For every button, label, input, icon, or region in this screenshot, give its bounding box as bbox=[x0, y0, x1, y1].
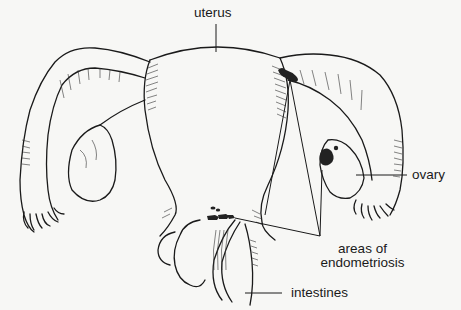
endometriosis-label-line2: endometriosis bbox=[295, 256, 430, 270]
endometriosis-label-line1: areas of bbox=[295, 242, 430, 256]
left-fallopian-tube bbox=[20, 48, 150, 232]
intestines-label: intestines bbox=[291, 286, 348, 300]
endometriosis-label: areas of endometriosis bbox=[295, 242, 430, 270]
ovary-label: ovary bbox=[412, 168, 445, 182]
endometriosis-lesions bbox=[207, 68, 338, 220]
uterus-label: uterus bbox=[194, 6, 232, 20]
endometriosis-diagram: uterus ovary areas of endometriosis inte… bbox=[0, 0, 461, 310]
right-fallopian-tube bbox=[280, 54, 403, 220]
left-ovary bbox=[69, 125, 117, 201]
uterus-shape bbox=[144, 47, 288, 240]
intestines-shape bbox=[158, 220, 258, 305]
